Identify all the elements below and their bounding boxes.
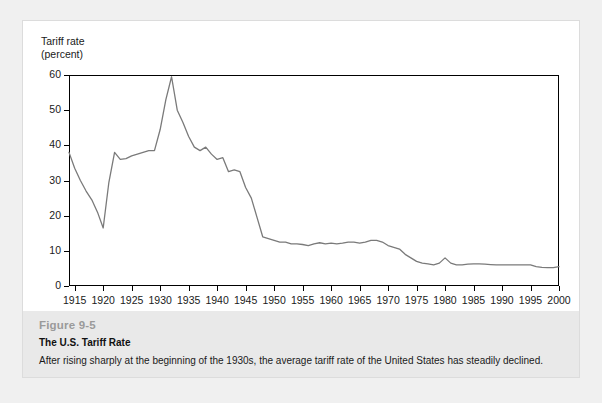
y-axis-tickmark-40 [64,145,69,146]
x-axis-tick-2000: 2000 [542,294,576,306]
figure-card: Tariff rate(percent) 0102030405060 19151… [22,20,580,378]
y-axis-tick-10: 10 [37,244,61,256]
y-axis-tick-40: 40 [37,138,61,150]
x-axis-tickmark-1970 [388,286,389,291]
figure-description: After rising sharply at the beginning of… [39,355,543,366]
y-axis-tickmark-30 [64,181,69,182]
x-axis-tickmark-1945 [246,286,247,291]
y-axis-tickmark-10 [64,251,69,252]
y-axis-tick-20: 20 [37,209,61,221]
tariff-rate-line [69,77,559,268]
x-axis-tickmark-1950 [274,286,275,291]
x-axis-tickmark-1995 [531,286,532,291]
x-axis-tickmark-1955 [303,286,304,291]
figure-number: Figure 9-5 [39,319,96,331]
x-axis-tickmark-1915 [75,286,76,291]
x-axis-tickmark-1990 [502,286,503,291]
y-axis-tickmark-50 [64,110,69,111]
y-axis-tick-30: 30 [37,174,61,186]
y-axis-tick-60: 60 [37,68,61,80]
x-axis-tickmark-1940 [217,286,218,291]
x-axis-tickmark-1925 [132,286,133,291]
tariff-line-chart [23,21,581,311]
y-axis-tickmark-60 [64,75,69,76]
x-axis-tickmark-1960 [331,286,332,291]
x-axis-tickmark-1935 [189,286,190,291]
y-axis-tick-50: 50 [37,103,61,115]
chart-area: Tariff rate(percent) 0102030405060 19151… [23,21,581,311]
x-axis-tickmark-1975 [417,286,418,291]
y-axis-tickmark-0 [64,286,69,287]
x-axis-tickmark-2000 [559,286,560,291]
figure-title: The U.S. Tariff Rate [39,337,131,348]
x-axis-tickmark-1965 [360,286,361,291]
x-axis-tickmark-1980 [445,286,446,291]
x-axis-tickmark-1920 [103,286,104,291]
y-axis-tickmark-20 [64,216,69,217]
figure-caption-band: Figure 9-5 The U.S. Tariff Rate After ri… [23,311,579,377]
x-axis-tickmark-1985 [474,286,475,291]
y-axis-tick-0: 0 [37,279,61,291]
x-axis-tickmark-1930 [160,286,161,291]
